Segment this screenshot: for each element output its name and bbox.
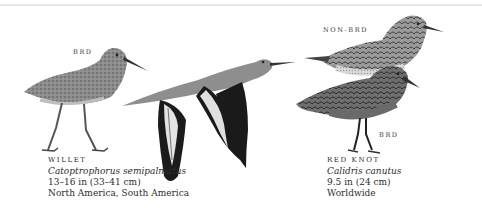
red-knot-nonbrd-tag: NON-BRD — [323, 26, 368, 34]
red-knot-caption: RED KNOT Calidris canutus 9.5 in (24 cm)… — [327, 155, 401, 199]
willet-range: North America, South America — [48, 188, 189, 199]
red-knot-common-name: RED KNOT — [327, 155, 401, 166]
willet-standing-illustration — [24, 48, 148, 151]
willet-brd-tag: BRD — [73, 48, 93, 56]
red-knot-size: 9.5 in (24 cm) — [327, 177, 401, 188]
willet-size: 13–16 in (33–41 cm) — [48, 177, 189, 188]
red-knot-brd-tag: BRD — [379, 131, 399, 139]
willet-common-name: WILLET — [48, 155, 189, 166]
red-knot-breeding-illustration — [296, 66, 420, 153]
red-knot-scientific-name: Calidris canutus — [327, 166, 401, 177]
willet-scientific-name: Catoptrophorus semipalmatus — [48, 166, 189, 177]
red-knot-nonbreeding-illustration — [304, 16, 444, 73]
red-knot-range: Worldwide — [327, 188, 401, 199]
willet-caption: WILLET Catoptrophorus semipalmatus 13–16… — [48, 155, 189, 199]
